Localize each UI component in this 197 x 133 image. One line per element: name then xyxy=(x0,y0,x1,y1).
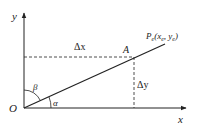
delta-x-label: Δx xyxy=(74,41,85,52)
point-pe-label: Pe(xe, ye) xyxy=(145,31,178,42)
alpha-arc xyxy=(49,97,51,108)
line-o-to-pe xyxy=(24,44,165,108)
point-a-label: A xyxy=(122,44,130,55)
diagram-canvas: y x O A Δx Δy β α Pe(xe, ye) xyxy=(0,0,197,133)
y-axis-label: y xyxy=(11,10,17,22)
coordinate-diagram: y x O A Δx Δy β α Pe(xe, ye) xyxy=(0,0,197,133)
x-axis-label: x xyxy=(177,113,183,125)
alpha-label: α xyxy=(53,98,58,108)
delta-y-label: Δy xyxy=(137,79,148,90)
origin-label: O xyxy=(9,102,17,114)
beta-label: β xyxy=(32,82,38,92)
